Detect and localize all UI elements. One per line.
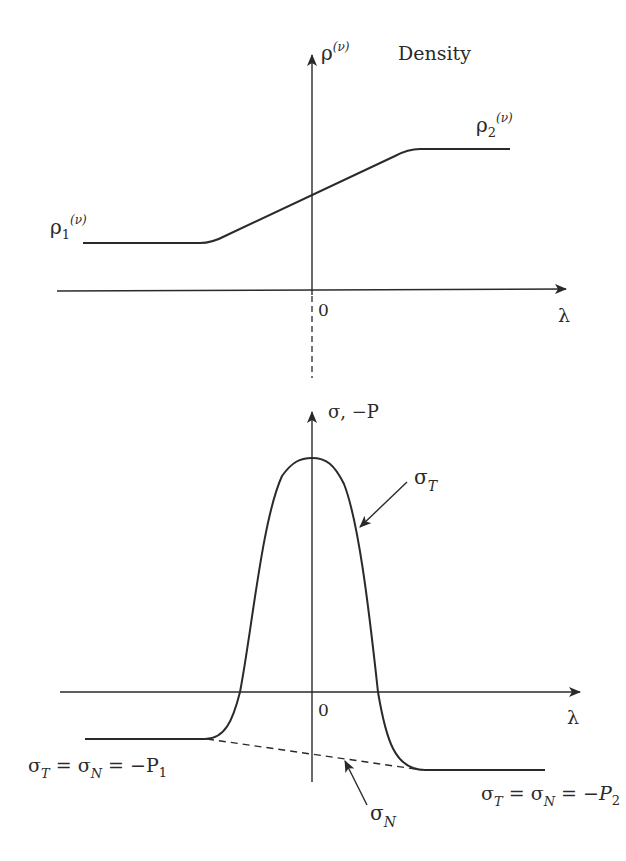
right-boundary-equation: σT = σN = −P2 [481, 782, 620, 809]
left-boundary-equation: σT = σN = −P1 [28, 754, 167, 781]
density-profile-curve [83, 149, 510, 243]
density-title: Density [398, 42, 471, 64]
density-panel: ρ(ν) Density ρ1(ν) ρ2(ν) 0 λ [50, 40, 570, 326]
sigma-T-label: σT [414, 465, 439, 494]
stress-panel: σ, −P σT σN 0 λ σT = σN = −P1 σT = σN = … [28, 401, 620, 830]
lambda-label-top: λ [558, 304, 570, 326]
rho2-label: ρ2(ν) [476, 111, 513, 140]
sigma-T-curve [85, 458, 545, 770]
sigma-N-label: σN [370, 801, 397, 830]
interface-diagram: ρ(ν) Density ρ1(ν) ρ2(ν) 0 λ σ, −P σT σN… [0, 0, 626, 861]
origin-label-top: 0 [318, 300, 329, 320]
sigma-T-pointer [360, 482, 407, 527]
lambda-label-bottom: λ [567, 706, 579, 728]
sigma-N-pointer [345, 761, 367, 805]
rho1-label: ρ1(ν) [50, 213, 87, 242]
origin-label-bottom: 0 [318, 700, 329, 720]
rho-axis-label: ρ(ν) [321, 40, 350, 65]
sigma-axis-label: σ, −P [328, 401, 379, 422]
